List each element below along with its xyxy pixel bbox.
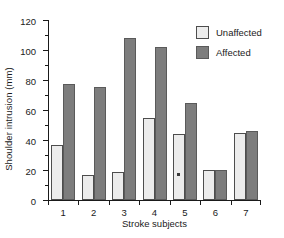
x-tick: [200, 201, 201, 205]
bar-affected-subject-7: [246, 131, 258, 200]
x-axis-title: Stroke subjects: [48, 218, 261, 229]
legend-swatch-unaffected: [196, 26, 209, 39]
legend-item-unaffected: Unaffected: [196, 26, 262, 39]
y-tick-minor: [45, 185, 48, 186]
bar-affected-subject-3: [124, 38, 136, 200]
x-tick: [170, 201, 171, 205]
x-axis-line: [48, 200, 261, 201]
y-tick-minor: [45, 35, 48, 36]
chart-legend: UnaffectedAffected: [196, 26, 262, 59]
x-tick-label-7: 7: [243, 207, 248, 218]
bar-unaffected-subject-1: [51, 145, 63, 200]
y-tick-minor: [45, 125, 48, 126]
bar-unaffected-subject-3: [112, 172, 124, 201]
legend-label: Affected: [216, 47, 251, 58]
legend-item-affected: Affected: [196, 46, 262, 59]
x-tick-label-2: 2: [91, 207, 96, 218]
y-tick-label: 80: [25, 75, 36, 86]
bar-unaffected-subject-4: [143, 118, 155, 201]
y-tick: 40: [43, 140, 48, 141]
y-tick-label: 20: [25, 165, 36, 176]
x-tick: [260, 201, 261, 205]
y-tick-minor: [45, 65, 48, 66]
y-tick-label: 60: [25, 105, 36, 116]
y-tick-label: 120: [20, 15, 36, 26]
y-axis-line: [48, 20, 49, 201]
x-tick-label-4: 4: [152, 207, 157, 218]
legend-label: Unaffected: [216, 27, 262, 38]
bar-annotation-mark: [177, 173, 180, 176]
bar-unaffected-subject-2: [82, 175, 94, 201]
x-tick: [109, 201, 110, 205]
y-tick: 120: [43, 20, 48, 21]
bar-unaffected-subject-7: [234, 133, 246, 200]
x-tick: [48, 201, 49, 205]
bar-unaffected-subject-5: [173, 134, 185, 200]
y-tick: 80: [43, 80, 48, 81]
bar-affected-subject-2: [94, 87, 106, 200]
x-tick: [78, 201, 79, 205]
y-tick-label: 0: [31, 195, 36, 206]
y-tick-minor: [45, 95, 48, 96]
y-axis-title: Shoulder intrusion (mm): [0, 0, 16, 238]
x-tick-label-5: 5: [182, 207, 187, 218]
bar-affected-subject-5: [185, 103, 197, 201]
y-tick: 60: [43, 110, 48, 111]
y-tick: 100: [43, 50, 48, 51]
legend-swatch-affected: [196, 46, 209, 59]
x-tick-label-3: 3: [121, 207, 126, 218]
x-tick-label-1: 1: [61, 207, 66, 218]
y-tick: 20: [43, 170, 48, 171]
bar-unaffected-subject-6: [203, 170, 215, 200]
y-tick-minor: [45, 155, 48, 156]
x-tick-label-6: 6: [213, 207, 218, 218]
bar-affected-subject-4: [155, 47, 167, 200]
bar-affected-subject-1: [63, 84, 75, 200]
bar-chart-figure: Shoulder intrusion (mm) 020406080100120 …: [0, 0, 284, 238]
bar-affected-subject-6: [215, 170, 227, 200]
x-tick: [231, 201, 232, 205]
y-tick-label: 40: [25, 135, 36, 146]
x-tick: [139, 201, 140, 205]
y-tick-label: 100: [20, 45, 36, 56]
